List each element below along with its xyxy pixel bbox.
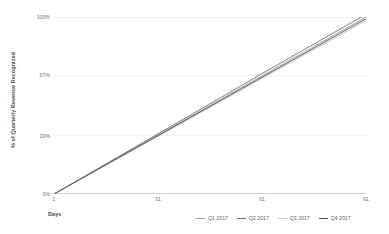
legend-item[interactable]: Q2 2017 xyxy=(237,216,269,221)
x-axis-title: Days xyxy=(48,211,61,217)
revenue-recognition-line-chart: % of Quarterly Revenue Recognized 100% 6… xyxy=(0,0,389,234)
y-axis-tick-labels: 100% 67% 33% 0% xyxy=(22,17,50,194)
legend-item[interactable]: Q4 2017 xyxy=(319,216,351,221)
legend-label: Q3 2017 xyxy=(290,216,310,221)
legend-item[interactable]: Q1 2017 xyxy=(196,216,228,221)
legend-swatch-icon xyxy=(278,218,287,220)
legend-label: Q4 2017 xyxy=(331,216,351,221)
x-axis-tick-labels: 1 31 61 91 xyxy=(54,196,366,206)
legend-swatch-icon xyxy=(196,218,205,220)
y-tick-label: 33% xyxy=(24,133,50,139)
plot-svg xyxy=(54,17,366,194)
legend-label: Q1 2017 xyxy=(208,216,228,221)
y-tick-label: 0% xyxy=(24,191,50,197)
chart-legend: Q1 2017 Q2 2017 Q3 2017 Q4 2017 xyxy=(196,213,351,225)
x-tick-label: 61 xyxy=(259,196,265,202)
legend-swatch-icon xyxy=(319,218,328,220)
plot-area xyxy=(54,17,366,194)
legend-label: Q2 2017 xyxy=(249,216,269,221)
y-axis-title: % of Quarterly Revenue Recognized xyxy=(6,0,20,200)
y-tick-label: 100% xyxy=(24,14,50,20)
x-tick-label: 91 xyxy=(363,196,369,202)
y-tick-label: 67% xyxy=(24,72,50,78)
y-axis-title-text: % of Quarterly Revenue Recognized xyxy=(10,52,16,148)
data-series-group xyxy=(54,17,366,194)
legend-swatch-icon xyxy=(237,218,246,220)
x-tick-label: 31 xyxy=(155,196,161,202)
series-line xyxy=(54,19,366,194)
legend-item[interactable]: Q3 2017 xyxy=(278,216,310,221)
x-tick-label: 1 xyxy=(53,196,56,202)
gridlines xyxy=(54,18,366,136)
